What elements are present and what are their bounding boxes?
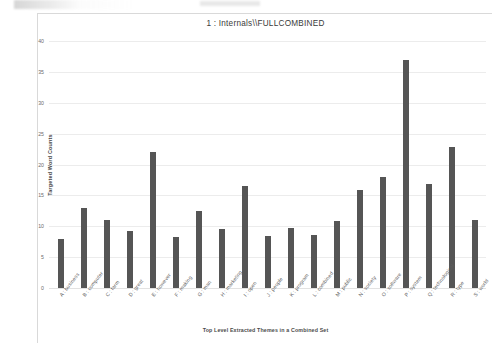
bar-slot <box>210 41 233 288</box>
y-axis-tick-label: 35 <box>38 69 44 75</box>
bar-slot <box>49 41 72 288</box>
bar-slot <box>164 41 187 288</box>
y-axis-tick-label: 30 <box>38 100 44 106</box>
y-axis-tick-label: 20 <box>38 162 44 168</box>
x-axis-title: Top Level Extracted Themes in a Combined… <box>38 327 493 333</box>
bar[interactable] <box>81 208 87 288</box>
bar-slot <box>187 41 210 288</box>
y-axis-tick-label: 10 <box>38 223 44 229</box>
bar[interactable] <box>58 239 64 288</box>
bar[interactable] <box>150 152 156 288</box>
bar-slot <box>440 41 463 288</box>
bar[interactable] <box>219 229 225 288</box>
bar-slot <box>463 41 486 288</box>
bar[interactable] <box>173 237 179 288</box>
y-axis-tick-label: 40 <box>38 38 44 44</box>
bar-slot <box>302 41 325 288</box>
bar-slot <box>325 41 348 288</box>
bar[interactable] <box>127 231 133 288</box>
bar-slot <box>371 41 394 288</box>
bar-slot <box>417 41 440 288</box>
bar-slot <box>141 41 164 288</box>
bar[interactable] <box>380 177 386 288</box>
y-axis-tick-label: 0 <box>41 285 44 291</box>
bar[interactable] <box>104 220 110 288</box>
bar[interactable] <box>426 184 432 288</box>
y-axis-tick-label: 5 <box>41 254 44 260</box>
bar-slot <box>348 41 371 288</box>
chart-figure: 1 : Internals\\FULLCOMBINED 051015202530… <box>37 13 492 343</box>
scan-artifact <box>14 0 134 9</box>
bar-slot <box>95 41 118 288</box>
bar-slot <box>394 41 417 288</box>
bar-series <box>49 41 486 288</box>
bar[interactable] <box>265 236 271 288</box>
scan-artifact-secondary <box>200 1 260 6</box>
bar[interactable] <box>196 211 202 288</box>
bar-slot <box>72 41 95 288</box>
bar-slot <box>256 41 279 288</box>
y-axis-tick-label: 15 <box>38 192 44 198</box>
bar-slot <box>279 41 302 288</box>
bar[interactable] <box>357 190 363 288</box>
bar[interactable] <box>311 235 317 288</box>
plot-area: 0510152025303540 Targeted Word Counts <box>49 41 486 288</box>
bar[interactable] <box>403 60 409 288</box>
bar[interactable] <box>334 221 340 288</box>
y-axis-tick-label: 25 <box>38 131 44 137</box>
chart-title: 1 : Internals\\FULLCOMBINED <box>38 19 493 28</box>
bar[interactable] <box>288 228 294 289</box>
bar-slot <box>118 41 141 288</box>
bar[interactable] <box>472 220 478 288</box>
bar-slot <box>233 41 256 288</box>
